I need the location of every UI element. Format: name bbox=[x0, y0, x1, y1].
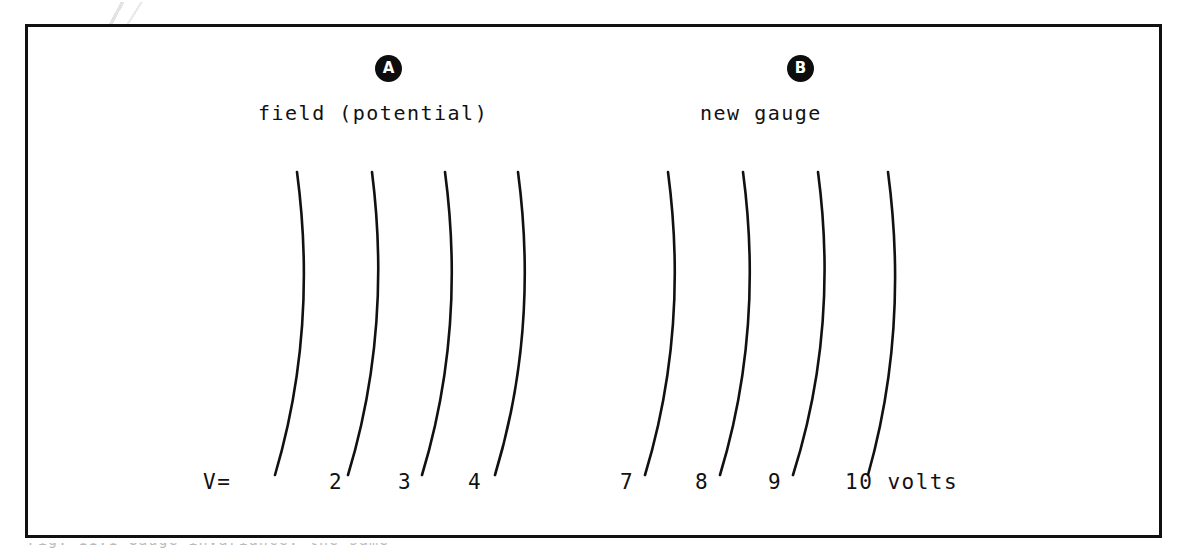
cut-off-caption: Fig. 11.1 Gauge invariance: the same phy… bbox=[28, 543, 388, 555]
cut-off-caption-text: Fig. 11.1 Gauge invariance: the same phy… bbox=[28, 543, 388, 549]
equipotential-curve-2 bbox=[348, 172, 378, 475]
equipotential-curve-7 bbox=[645, 172, 675, 475]
equipotential-curve-8 bbox=[720, 172, 750, 475]
equipotential-curve-10 bbox=[868, 172, 895, 475]
voltage-tick-label-3: 3 bbox=[398, 470, 412, 494]
equipotential-curve-9 bbox=[793, 172, 825, 475]
figure-root: A field (potential) B new gauge V= 10 vo… bbox=[0, 0, 1178, 555]
equipotential-curve-1 bbox=[275, 172, 304, 475]
voltage-axis-prefix: V= bbox=[203, 470, 231, 494]
voltage-tick-label-8: 8 bbox=[695, 470, 709, 494]
voltage-tick-label-9: 9 bbox=[768, 470, 782, 494]
equipotential-curve-layer bbox=[0, 0, 1178, 555]
voltage-tick-label-7: 7 bbox=[620, 470, 634, 494]
voltage-tick-label-4: 4 bbox=[468, 470, 482, 494]
voltage-axis-units: 10 volts bbox=[845, 470, 958, 494]
voltage-tick-label-2: 2 bbox=[329, 470, 343, 494]
equipotential-curve-4 bbox=[495, 172, 525, 475]
equipotential-curve-3 bbox=[422, 172, 452, 475]
